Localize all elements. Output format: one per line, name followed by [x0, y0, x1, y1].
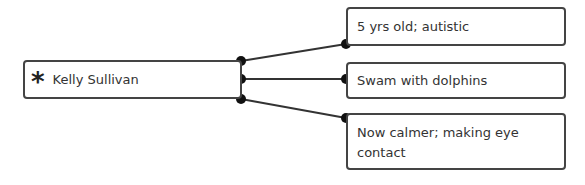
child-node-progress[interactable]: Now calmer; making eye contact: [346, 113, 566, 170]
child-node-dolphins[interactable]: Swam with dolphins: [346, 62, 566, 99]
root-node-label: Kelly Sullivan: [53, 72, 139, 87]
child-node-label: Now calmer; making eye contact: [357, 125, 519, 160]
child-node-age[interactable]: 5 yrs old; autistic: [346, 7, 566, 46]
asterisk-icon: *: [31, 69, 45, 95]
root-node[interactable]: * Kelly Sullivan: [23, 60, 242, 99]
child-node-label: Swam with dolphins: [357, 73, 487, 88]
child-node-label: 5 yrs old; autistic: [357, 19, 469, 34]
